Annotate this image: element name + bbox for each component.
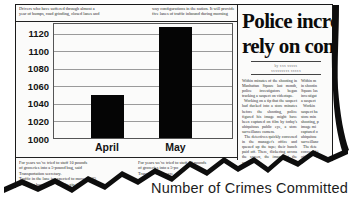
- byline-rule-top: [251, 61, 321, 62]
- chart-caption: Number of Crimes Committed: [151, 180, 348, 196]
- y-axis-tick: 1100: [18, 46, 49, 57]
- article-body-column-2: Within m in shootin Square las investiga…: [301, 78, 333, 170]
- y-axis-tick: 1040: [18, 98, 49, 109]
- x-axis-label-april: April: [82, 141, 132, 153]
- bottom-snippet-left: For years we've tried to stuff 10 pounds…: [19, 160, 131, 187]
- article-section: Police incre rely on com by xxx xxxxx xx…: [241, 5, 333, 196]
- x-axis-label-may: May: [150, 141, 200, 153]
- y-axis-tick: 1060: [18, 81, 49, 92]
- article-body-column-1: Within minutes of the shooting in Manhat…: [242, 78, 297, 165]
- y-axis-tick: 1120: [18, 28, 49, 39]
- y-axis-tick: 1000: [18, 134, 49, 145]
- article-headline-line1: Police incre: [242, 9, 333, 33]
- bottom-rule: [16, 157, 237, 158]
- plot-area: [53, 23, 233, 139]
- y-axis-tick: 1080: [18, 63, 49, 74]
- article-headline-line2: rely on com: [242, 34, 333, 58]
- figure-canvas: Drivers who have suffered through almost…: [0, 0, 351, 203]
- newspaper-clipping: Drivers who have suffered through almost…: [15, 4, 333, 196]
- page-curl-edge: [332, 5, 349, 154]
- byline-rule-bottom: [251, 74, 321, 75]
- section-divider: [237, 5, 238, 160]
- article-byline-line2: xxxxxxxxx xxxxx: [241, 69, 331, 74]
- y-axis-tick: 1020: [18, 116, 49, 127]
- article-byline-line1: by xxx xxxxx: [241, 64, 331, 69]
- bottom-snippet-right: For years we've tried to stuff 10 pounds…: [138, 160, 234, 176]
